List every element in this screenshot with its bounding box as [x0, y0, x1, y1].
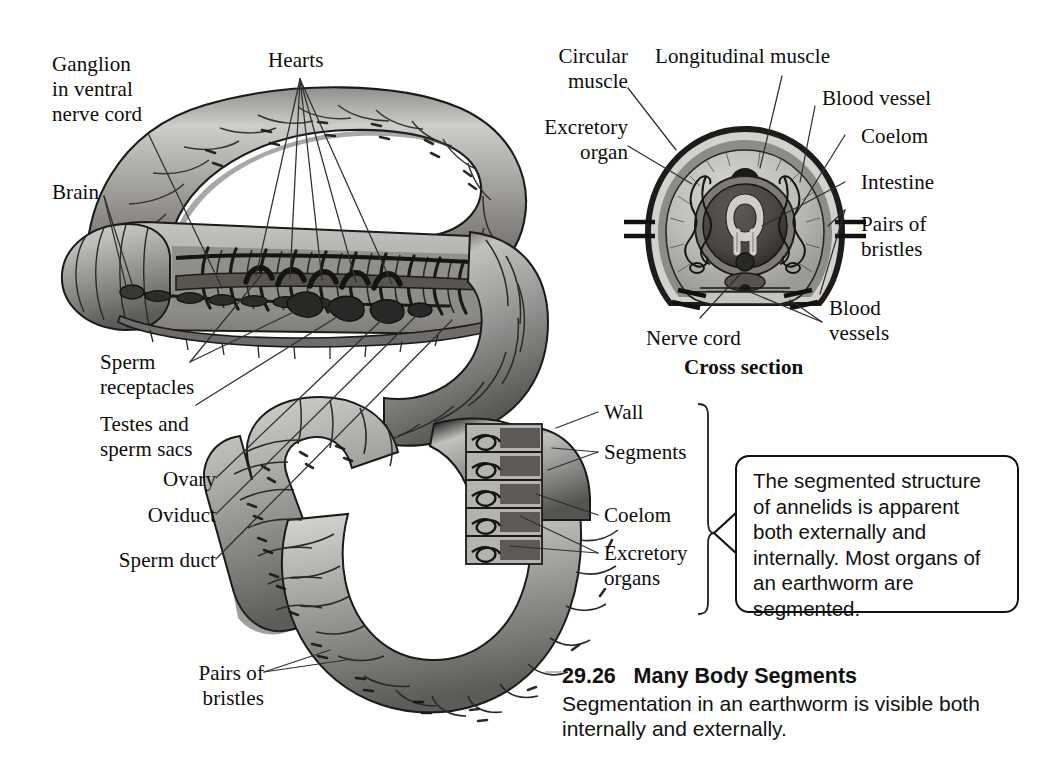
cutaway-window: [466, 424, 542, 564]
label-segments: Segments: [604, 440, 686, 465]
label-circular-muscle: Circular muscle: [470, 44, 628, 94]
label-blood-vessel: Blood vessel: [822, 86, 931, 111]
label-ganglion-ventral-nerve-cord: Ganglion in ventral nerve cord: [52, 52, 142, 127]
label-hearts: Hearts: [268, 48, 323, 73]
heading-cross-section: Cross section: [684, 355, 803, 380]
label-oviduct: Oviduct: [20, 503, 216, 528]
label-wall: Wall: [604, 400, 644, 425]
label-testes-and-sperm-sacs: Testes and sperm sacs: [100, 412, 193, 462]
figure-caption: 29.26 Many Body Segments Segmentation in…: [562, 663, 992, 742]
label-longitudinal-muscle: Longitudinal muscle: [655, 44, 830, 69]
label-excretory-organs: Excretory organs: [604, 541, 688, 591]
label-ovary: Ovary: [20, 467, 216, 492]
callout-text: The segmented structure of annelids is a…: [753, 469, 981, 620]
label-pairs-of-bristles-cross-section: Pairs of bristles: [861, 212, 927, 262]
label-nerve-cord: Nerve cord: [646, 326, 741, 351]
label-pairs-of-bristles-lower: Pairs of bristles: [50, 661, 264, 711]
label-intestine: Intestine: [861, 170, 934, 195]
figure-title: Many Body Segments: [634, 664, 857, 688]
label-coelom-cross-section: Coelom: [861, 124, 928, 149]
callout-box: The segmented structure of annelids is a…: [735, 455, 1019, 613]
figure-page: Ganglion in ventral nerve cord Hearts Br…: [0, 0, 1037, 777]
label-sperm-duct: Sperm duct: [20, 548, 216, 573]
figure-number: 29.26: [562, 664, 616, 688]
label-brain: Brain: [52, 180, 99, 205]
label-sperm-receptacles: Sperm receptacles: [100, 350, 194, 400]
label-coelom-cutaway: Coelom: [604, 503, 671, 528]
label-excretory-organ: Excretory organ: [470, 115, 628, 165]
figure-caption-text: Segmentation in an earthworm is visible …: [562, 691, 992, 742]
label-blood-vessels: Blood vessels: [829, 296, 889, 346]
